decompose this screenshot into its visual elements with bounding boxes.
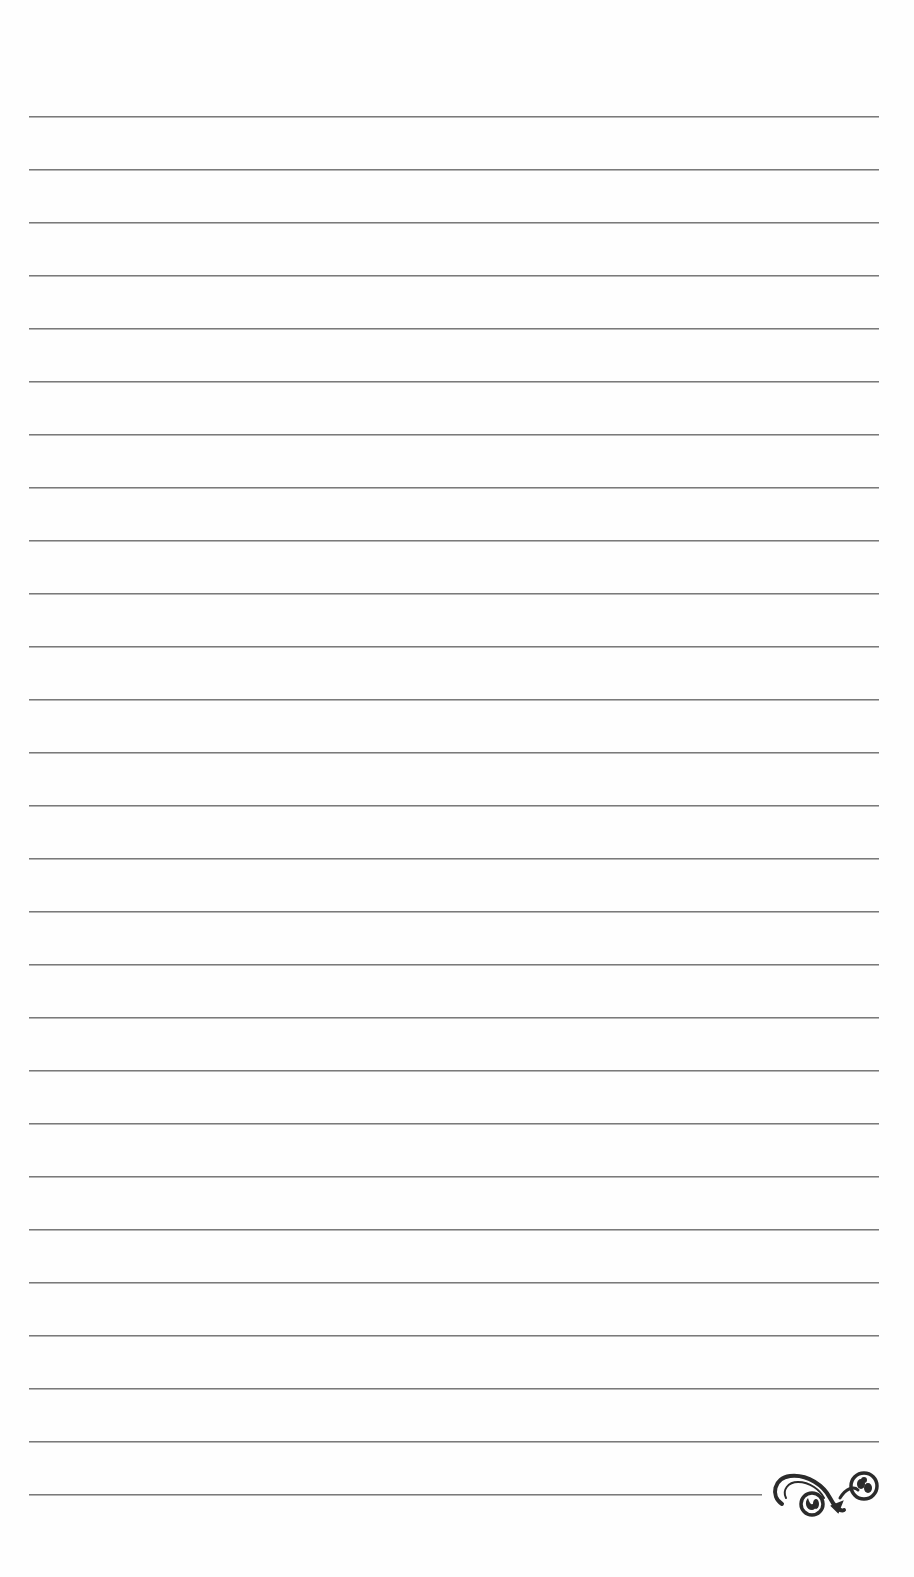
ruled-line [29, 540, 879, 542]
ruled-line [29, 1123, 879, 1125]
ruled-line [29, 222, 879, 224]
ruled-line [29, 275, 879, 277]
lined-paper-page [0, 0, 914, 1577]
ruled-line [29, 169, 879, 171]
ruled-line [29, 1229, 879, 1231]
ruled-line [29, 116, 879, 118]
ruled-line [29, 646, 879, 648]
ruled-line [29, 858, 879, 860]
ruled-line [29, 381, 879, 383]
ruled-line [29, 699, 879, 701]
ruled-line [29, 805, 879, 807]
ruled-line [29, 487, 879, 489]
ruled-line [29, 593, 879, 595]
ruled-line [29, 1388, 879, 1390]
ruled-line [29, 1335, 879, 1337]
ruled-line [29, 1282, 879, 1284]
ruled-line [29, 911, 879, 913]
ruled-line [29, 434, 879, 436]
ruled-line [29, 328, 879, 330]
ruled-line [29, 752, 879, 754]
ruled-line [29, 1017, 879, 1019]
ruled-line [29, 1441, 879, 1443]
ruled-line [29, 1070, 879, 1072]
ruled-line [29, 964, 879, 966]
ruled-line [29, 1494, 762, 1496]
flourish-ornament-icon [768, 1468, 884, 1520]
ruled-line [29, 1176, 879, 1178]
